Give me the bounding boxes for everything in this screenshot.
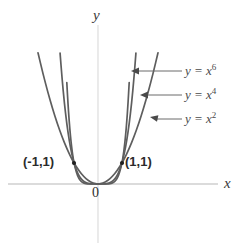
curve-label-exponent-0: 6 [212,62,217,72]
point-marker-minus-one-one [72,161,76,165]
curve-label-text-1: y = x [185,87,212,102]
curve-label-y-equals-x-fourth: y = x4 [185,88,216,101]
curve-label-exponent-2: 2 [212,110,217,120]
point-label-minus-one-one: (-1,1) [23,155,54,168]
annotation-leader-x-sixth [131,68,182,75]
point-marker-one-one [120,161,124,165]
annotation-leader-x-fourth [140,92,182,99]
origin-label: 0 [92,186,99,200]
y-axis-label: y [93,8,100,23]
x-axis-label: x [224,176,231,191]
point-label-one-one: (1,1) [125,155,152,168]
curve-label-text-0: y = x [185,63,212,78]
curve-label-exponent-1: 4 [212,86,217,96]
curve-label-text-2: y = x [185,111,212,126]
graph-figure: y x 0 (-1,1) (1,1) y = x6 y = x4 y = x2 [0,0,244,247]
curve-label-y-equals-x-sixth: y = x6 [185,64,216,77]
curve-label-y-equals-x-squared: y = x2 [185,112,216,125]
annotation-leader-x-squared [150,115,182,122]
